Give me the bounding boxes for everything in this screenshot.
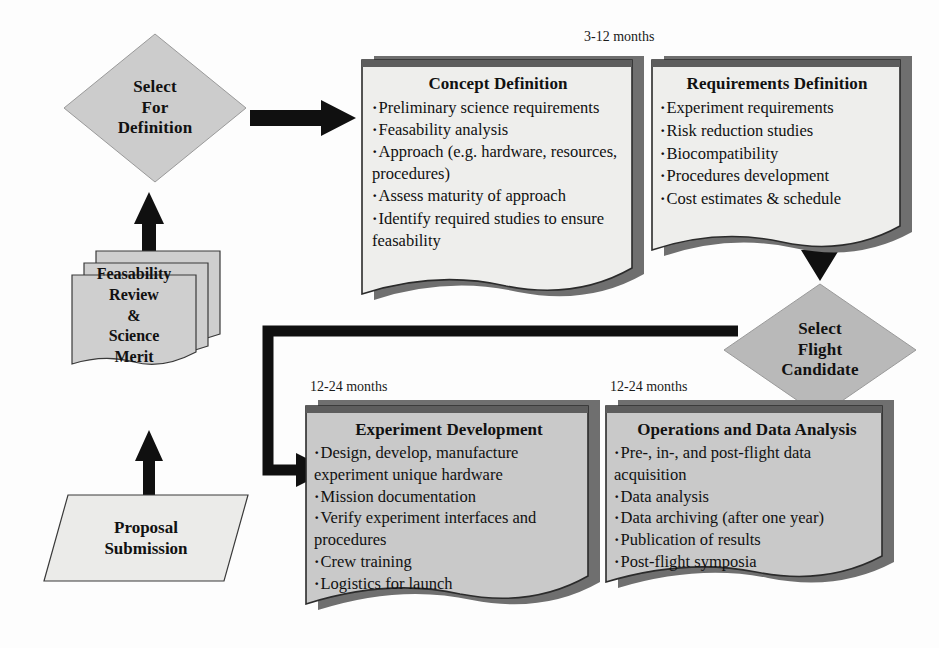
requirements-definition-node[interactable]: Requirements Definition Experiment requi… [648,50,916,280]
operations-and-data-analysis-node[interactable]: Operations and Data Analysis Pre-, in-, … [600,396,900,612]
arrow-select-definition-to-concept [250,100,356,136]
document-shape [600,396,900,612]
parallelogram-shape [42,493,250,583]
feasability-review-node[interactable]: Feasability Review & Science Merit [68,248,228,376]
select-for-definition-node[interactable]: Select For Definition [62,32,248,184]
sheet-front [72,275,196,364]
document-page [306,406,588,604]
document-top-band [362,60,632,67]
document-shape [648,50,916,280]
document-page [606,406,882,582]
diamond-shape [62,32,248,184]
arrow-feasability-to-select-definition [134,192,164,254]
document-page [652,60,900,250]
document-top-band [306,406,588,413]
stacked-documents-shape [68,248,228,376]
document-shape [300,396,610,632]
experiment-development-node[interactable]: Experiment Development Design, develop, … [300,396,610,632]
caption-concept-requirements-duration: 3-12 months [584,29,654,45]
arrow-proposal-to-feasability [135,430,163,497]
caption-operations-duration: 12-24 months [610,379,687,395]
document-top-band [606,406,882,413]
flowchart-canvas: Select For Definition Feasability Review… [0,0,939,648]
caption-experiment-development-duration: 12-24 months [310,379,387,395]
document-page [362,60,632,294]
concept-definition-node[interactable]: Concept Definition Preliminary science r… [358,50,648,314]
proposal-submission-node[interactable]: Proposal Submission [42,493,250,583]
document-top-band [652,60,900,67]
document-shape [358,50,648,314]
